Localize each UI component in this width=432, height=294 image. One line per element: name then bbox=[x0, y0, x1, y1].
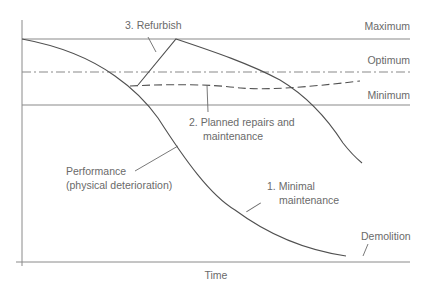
refurbish-label: 3. Refurbish bbox=[125, 19, 182, 31]
performance-label-line1: Performance bbox=[66, 165, 126, 177]
planned-repairs-label-line2: maintenance bbox=[203, 130, 263, 142]
minimal-maintenance-leader bbox=[246, 203, 260, 212]
planned-repairs-curve bbox=[130, 81, 360, 89]
performance-over-time-diagram: Maximum Optimum Minimum 3. Refurbish 2. … bbox=[0, 0, 432, 294]
demolition-leader bbox=[363, 244, 368, 256]
demolition-label: Demolition bbox=[361, 230, 411, 242]
refurbish-curve bbox=[138, 39, 362, 163]
optimum-label: Optimum bbox=[367, 54, 410, 66]
performance-leader bbox=[135, 146, 178, 171]
x-axis-label: Time bbox=[205, 269, 228, 281]
minimal-maintenance-label-line2: maintenance bbox=[279, 194, 339, 206]
performance-label-line2: (physical deterioration) bbox=[66, 179, 172, 191]
planned-repairs-label-line1: 2. Planned repairs and bbox=[189, 116, 295, 128]
maximum-label: Maximum bbox=[364, 20, 410, 32]
minimal-maintenance-label-line1: 1. Minimal bbox=[267, 180, 315, 192]
minimum-label: Minimum bbox=[367, 89, 410, 101]
planned-repairs-leader bbox=[207, 85, 208, 112]
